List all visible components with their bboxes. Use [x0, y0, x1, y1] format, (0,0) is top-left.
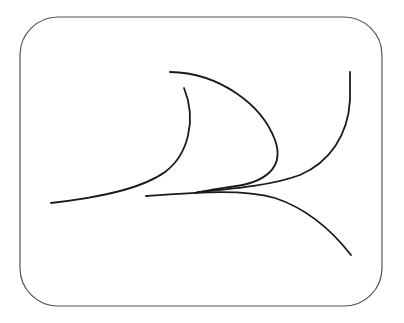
upper-arc-curve — [170, 72, 278, 193]
line-drawing-canvas — [0, 0, 404, 323]
right-tall-curve — [198, 72, 350, 192]
rounded-frame — [20, 17, 382, 306]
left-sweep-curve — [51, 88, 190, 203]
lower-branch-curve — [146, 192, 351, 255]
